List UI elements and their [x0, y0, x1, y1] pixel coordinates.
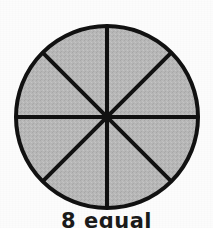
- sector-divider-lines: [16, 26, 198, 208]
- fraction-circle-figure: [0, 0, 213, 228]
- circle-group: [16, 26, 198, 208]
- figure-caption: 8 equal: [0, 210, 213, 228]
- worksheet-figure-page: 8 equal: [0, 0, 213, 228]
